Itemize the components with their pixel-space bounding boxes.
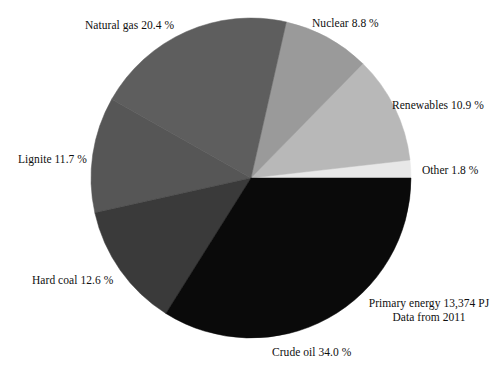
annotation-primary-energy: Primary energy 13,374 PJ xyxy=(362,296,496,310)
chart-annotation: Primary energy 13,374 PJ Data from 2011 xyxy=(362,296,496,324)
slice-label-lignite: Lignite 11.7 % xyxy=(18,152,87,166)
pie-slice-group xyxy=(91,18,411,338)
slice-label-renewables: Renewables 10.9 % xyxy=(392,98,484,112)
slice-label-crude-oil: Crude oil 34.0 % xyxy=(272,345,351,359)
slice-label-natural-gas: Natural gas 20.4 % xyxy=(85,18,174,32)
slice-label-other: Other 1.8 % xyxy=(422,163,478,177)
slice-label-nuclear: Nuclear 8.8 % xyxy=(312,16,379,30)
pie-chart-figure: Natural gas 20.4 % Nuclear 8.8 % Renewab… xyxy=(0,0,499,367)
annotation-data-year: Data from 2011 xyxy=(362,310,496,324)
slice-label-hard-coal: Hard coal 12.6 % xyxy=(32,273,113,287)
